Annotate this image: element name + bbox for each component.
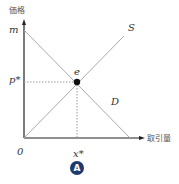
figure-badge: A (70, 161, 84, 175)
y-axis-arrow-icon (22, 19, 26, 25)
demand-label: D (111, 96, 119, 107)
equilibrium-point (74, 79, 80, 85)
supply-curve (24, 36, 124, 138)
diagram-canvas (0, 0, 179, 184)
x-axis-arrow-icon (139, 136, 145, 140)
equilibrium-point-label: e (74, 66, 80, 77)
y-axis-label: 価格 (9, 4, 25, 15)
y-intercept-label: m (9, 24, 18, 35)
equilibrium-price-label: p* (9, 74, 20, 85)
supply-label: S (128, 22, 135, 33)
equilibrium-quantity-label: x* (73, 148, 84, 159)
origin-label: 0 (17, 146, 23, 157)
x-axis-label: 取引量 (147, 132, 171, 143)
